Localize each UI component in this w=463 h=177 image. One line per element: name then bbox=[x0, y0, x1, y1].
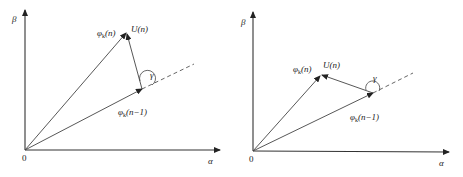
u-n-label: U(n) bbox=[323, 60, 340, 70]
phi-n-label: φk(n) bbox=[293, 64, 311, 75]
left-diagram: β α 0 φk(n) U(n) γ φk(n−1) bbox=[11, 10, 220, 166]
u-n-vector bbox=[322, 75, 373, 93]
right-diagram: β α 0 φk(n) U(n) γ φk(n−1) bbox=[240, 12, 449, 168]
origin-label: 0 bbox=[249, 154, 254, 164]
alpha-axis-label: α bbox=[208, 156, 213, 166]
phi-n-minus-1-vector bbox=[25, 89, 142, 150]
gamma-label: γ bbox=[373, 73, 377, 83]
alpha-axis bbox=[253, 151, 449, 152]
phi-n-vector bbox=[253, 76, 320, 151]
beta-axis-label: β bbox=[11, 14, 17, 24]
u-n-label: U(n) bbox=[131, 24, 148, 34]
phi-n-vector bbox=[25, 33, 126, 150]
phi-n-minus-1-label: φk(n−1) bbox=[118, 107, 147, 118]
gamma-label: γ bbox=[150, 70, 154, 80]
vector-diagram-canvas: β α 0 φk(n) U(n) γ φk(n−1) β α 0 φk(n) U… bbox=[0, 0, 463, 177]
origin-label: 0 bbox=[22, 153, 27, 163]
phi-n-label: φk(n) bbox=[97, 28, 115, 39]
alpha-axis-label: α bbox=[439, 158, 444, 168]
beta-axis-label: β bbox=[240, 17, 246, 27]
phi-n-minus-1-label: φk(n−1) bbox=[350, 112, 379, 123]
